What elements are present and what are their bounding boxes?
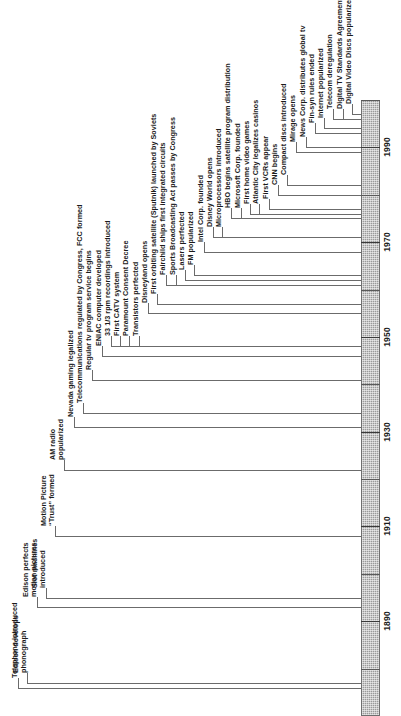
event-label-line: introduced <box>39 539 47 588</box>
leader-line-vertical <box>166 275 167 285</box>
leader-line-vertical <box>213 227 214 237</box>
leader-line-horizontal <box>194 275 361 276</box>
leader-line-horizontal <box>74 427 361 428</box>
leader-line-horizontal <box>148 313 361 314</box>
axis-tick-1990 <box>361 147 380 148</box>
leader-line-vertical <box>287 175 288 185</box>
leader-line-horizontal <box>46 598 361 599</box>
leader-line-vertical <box>343 109 344 119</box>
leader-line-vertical <box>296 142 297 152</box>
leader-line-horizontal <box>204 252 361 253</box>
leader-line-vertical <box>55 526 56 536</box>
axis-tick-1920 <box>361 479 380 480</box>
leader-line-vertical <box>204 242 205 252</box>
leader-line-horizontal <box>269 209 361 210</box>
leader-line-horizontal <box>287 185 361 186</box>
leader-line-horizontal <box>306 147 361 148</box>
leader-line-vertical <box>352 104 353 114</box>
event-label: Edison developsphonograph <box>0 615 28 673</box>
axis-year-1950: 1950 <box>382 327 392 347</box>
leader-line-horizontal <box>222 237 361 238</box>
leader-line-vertical <box>148 303 149 313</box>
leader-line-horizontal <box>185 280 361 281</box>
leader-line-horizontal <box>157 304 361 305</box>
leader-line-vertical <box>64 460 65 470</box>
axis-year-1930: 1930 <box>382 422 392 442</box>
leader-line-vertical <box>259 204 260 214</box>
axis-tick-1890 <box>361 621 380 622</box>
leader-line-vertical <box>74 417 75 427</box>
event-label-line: phonograph <box>20 615 28 673</box>
leader-line-vertical <box>92 370 93 380</box>
leader-line-horizontal <box>352 114 361 115</box>
leader-line-vertical <box>139 336 140 346</box>
leader-line-horizontal <box>92 380 361 381</box>
leader-line-vertical <box>194 265 195 275</box>
leader-line-vertical <box>306 137 307 147</box>
leader-line-horizontal <box>27 683 361 684</box>
axis-tick-1930 <box>361 432 380 433</box>
leader-line-horizontal <box>83 413 361 414</box>
leader-line-horizontal <box>278 195 361 196</box>
axis-year-1890: 1890 <box>382 611 392 631</box>
axis-tick-1960 <box>361 290 380 291</box>
event-label-line: popularized <box>57 419 65 460</box>
leader-line-vertical <box>231 208 232 218</box>
leader-line-horizontal <box>324 128 361 129</box>
event-label: AM radiopopularized <box>0 419 65 460</box>
event-label-line: “Trust” formed <box>48 474 56 526</box>
leader-line-vertical <box>176 275 177 285</box>
leader-line-vertical <box>157 294 158 304</box>
leader-line-vertical <box>111 336 112 346</box>
axis-tick-1910 <box>361 526 380 527</box>
axis-tick-2000 <box>361 100 380 101</box>
leader-line-horizontal <box>343 119 361 120</box>
leader-line-horizontal <box>18 688 361 689</box>
event-label: Motion Picture“Trust” formed <box>0 474 56 526</box>
leader-line-horizontal <box>55 536 361 537</box>
axis-year-1910: 1910 <box>382 516 392 536</box>
timeline-figure: 189019101930195019701990 Telephone intro… <box>0 0 401 716</box>
leader-line-vertical <box>278 185 279 195</box>
leader-line-horizontal <box>37 607 361 608</box>
leader-line-vertical <box>185 270 186 280</box>
leader-line-vertical <box>18 678 19 688</box>
leader-line-horizontal <box>296 152 361 153</box>
leader-line-horizontal <box>315 133 361 134</box>
leader-line-horizontal <box>64 470 361 471</box>
leader-line-vertical <box>315 123 316 133</box>
axis-tick-1950 <box>361 337 380 338</box>
leader-line-vertical <box>333 109 334 119</box>
leader-line-horizontal <box>259 214 361 215</box>
leader-line-horizontal <box>241 218 361 219</box>
axis-year-1970: 1970 <box>382 232 392 252</box>
leader-line-vertical <box>102 346 103 356</box>
axis-tick-1970 <box>361 242 380 243</box>
axis-tick-1880 <box>361 669 380 670</box>
axis-tick-1900 <box>361 574 380 575</box>
axis-tick-1980 <box>361 195 380 196</box>
leader-line-vertical <box>324 118 325 128</box>
leader-line-vertical <box>83 403 84 413</box>
leader-line-vertical <box>37 597 38 607</box>
leader-line-vertical <box>129 336 130 346</box>
leader-line-vertical <box>46 588 47 598</box>
axis-tick-1940 <box>361 384 380 385</box>
leader-line-vertical <box>222 227 223 237</box>
leader-line-vertical <box>241 208 242 218</box>
leader-line-vertical <box>269 199 270 209</box>
event-label: Slot machinesintroduced <box>0 539 47 588</box>
event-label: Digital Video Discs popularized <box>153 0 353 104</box>
leader-line-horizontal <box>102 356 361 357</box>
axis-year-1990: 1990 <box>382 137 392 157</box>
leader-line-horizontal <box>176 285 361 286</box>
leader-line-vertical <box>27 673 28 683</box>
event-label-line: Digital Video Discs popularized <box>345 0 353 104</box>
leader-line-vertical <box>250 204 251 214</box>
leader-line-vertical <box>120 336 121 346</box>
timeline-axis-bar <box>361 100 380 716</box>
leader-line-horizontal <box>139 346 361 347</box>
